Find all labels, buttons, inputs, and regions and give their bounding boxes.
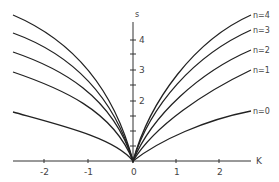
curve-n0 [13,111,251,161]
chart: -2 -1 0 1 2 2 3 4 K s n=4 n=3 n=2 n=1 n=… [0,0,279,182]
curve-n3 [13,30,251,161]
x-tick-label: -2 [40,167,49,177]
x-tick-label: 0 [131,167,137,177]
curve-label-n3: n=3 [253,26,270,35]
y-axis-label: s [135,10,139,19]
y-tick-label: 3 [139,65,145,75]
x-tick-label: -1 [84,167,93,177]
curve-n4 [13,15,251,161]
curve-n2 [13,50,251,161]
y-tick-label: 2 [139,96,145,106]
y-tick-label: 4 [139,35,145,45]
x-tick-label: 1 [174,167,180,177]
curve-label-n0: n=0 [253,107,270,116]
x-tick-label: 2 [217,167,223,177]
curve-label-n2: n=2 [253,46,270,55]
curve-label-n1: n=1 [253,66,270,75]
curve-label-n4: n=4 [253,11,270,20]
x-axis-label: K [256,156,263,166]
